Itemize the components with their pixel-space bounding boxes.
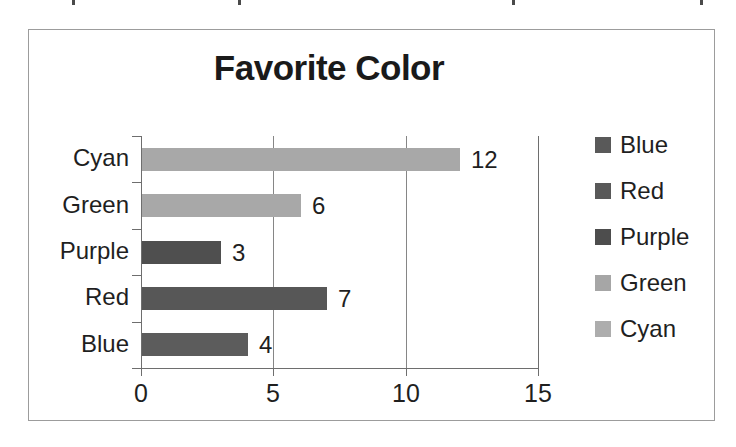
bar-cyan[interactable] bbox=[142, 148, 460, 171]
category-label-purple: Purple bbox=[37, 237, 129, 265]
value-tick-label-10: 10 bbox=[392, 379, 420, 408]
scan-artifact-mark bbox=[238, 0, 241, 5]
category-tick bbox=[132, 368, 141, 369]
bar-red[interactable] bbox=[142, 287, 327, 310]
category-label-cyan: Cyan bbox=[37, 144, 129, 172]
bar-value-label-green: 6 bbox=[312, 194, 325, 217]
legend-swatch-icon bbox=[595, 275, 611, 291]
value-tick-label-5: 5 bbox=[266, 379, 280, 408]
category-label-green: Green bbox=[37, 191, 129, 219]
legend-item-blue[interactable]: Blue bbox=[595, 130, 668, 160]
axis-line-right bbox=[538, 136, 539, 368]
legend-swatch-icon bbox=[595, 321, 611, 337]
legend-swatch-icon bbox=[595, 183, 611, 199]
scan-artifact-top bbox=[0, 0, 736, 12]
category-label-red: Red bbox=[37, 283, 129, 311]
legend-label: Blue bbox=[620, 133, 668, 157]
legend-label: Purple bbox=[620, 225, 689, 249]
legend-swatch-icon bbox=[595, 229, 611, 245]
scan-artifact-mark bbox=[700, 0, 703, 5]
bar-value-label-red: 7 bbox=[338, 287, 351, 310]
legend-label: Cyan bbox=[620, 317, 676, 341]
scan-artifact-mark bbox=[72, 0, 75, 5]
value-tick-label-0: 0 bbox=[134, 379, 148, 408]
category-tick bbox=[132, 322, 141, 323]
bar-value-label-cyan: 12 bbox=[471, 148, 498, 171]
category-tick bbox=[132, 182, 141, 183]
legend-item-green[interactable]: Green bbox=[595, 268, 687, 298]
legend-swatch-icon bbox=[595, 137, 611, 153]
legend-item-purple[interactable]: Purple bbox=[595, 222, 689, 252]
legend-label: Green bbox=[620, 271, 687, 295]
chart-title: Favorite Color bbox=[89, 48, 569, 88]
chart-container: Favorite Color 12Cyan6Green3Purple7Red4B… bbox=[28, 29, 715, 421]
value-tick bbox=[273, 368, 274, 376]
bar-value-label-purple: 3 bbox=[232, 241, 245, 264]
value-tick-label-15: 15 bbox=[524, 379, 552, 408]
bar-green[interactable] bbox=[142, 194, 301, 217]
bar-blue[interactable] bbox=[142, 333, 248, 356]
axis-line-value bbox=[141, 368, 539, 369]
category-tick bbox=[132, 229, 141, 230]
scan-artifact-mark bbox=[512, 0, 515, 5]
category-label-blue: Blue bbox=[37, 330, 129, 358]
value-tick bbox=[406, 368, 407, 376]
category-tick bbox=[132, 136, 141, 137]
plot-area: 12Cyan6Green3Purple7Red4Blue051015 bbox=[141, 136, 538, 368]
bar-value-label-blue: 4 bbox=[259, 333, 272, 356]
category-tick bbox=[132, 275, 141, 276]
legend-label: Red bbox=[620, 179, 664, 203]
bar-purple[interactable] bbox=[142, 241, 221, 264]
value-tick bbox=[538, 368, 539, 376]
legend-item-cyan[interactable]: Cyan bbox=[595, 314, 676, 344]
value-tick bbox=[141, 368, 142, 376]
legend-item-red[interactable]: Red bbox=[595, 176, 664, 206]
